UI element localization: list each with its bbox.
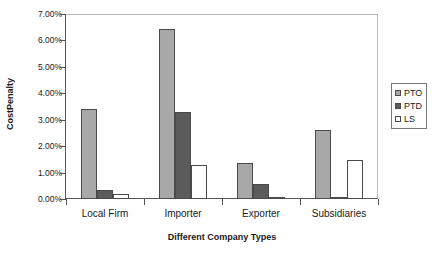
x-axis-tick-label: Importer	[144, 208, 222, 220]
y-axis-tick-label: 7.00%	[18, 10, 62, 19]
x-axis-tick-mark	[66, 199, 67, 205]
legend: PTOPTDLS	[391, 83, 427, 129]
plot-area	[66, 14, 378, 199]
legend-label: PTO	[404, 89, 422, 98]
bar-group	[300, 14, 378, 199]
y-axis-tick-labels: 0.00%1.00%2.00%3.00%4.00%5.00%6.00%7.00%	[18, 0, 62, 210]
x-axis-tick-mark	[222, 199, 223, 205]
y-axis-title: CostPenalty	[2, 78, 18, 130]
bar-pto-local-firm	[81, 109, 97, 199]
legend-item: PTD	[395, 100, 422, 112]
x-axis-tick-mark	[300, 199, 301, 205]
legend-label: PTD	[404, 102, 422, 111]
legend-item: PTO	[395, 87, 422, 99]
x-axis-tick-mark	[144, 199, 145, 205]
bar-pto-exporter	[237, 163, 253, 199]
bar-ptd-exporter	[253, 184, 269, 199]
bar-chart: CostPenalty 0.00%1.00%2.00%3.00%4.00%5.0…	[0, 0, 443, 262]
bar-ls-subsidiaries	[347, 160, 363, 199]
bar-ls-exporter	[269, 197, 285, 199]
bar-group	[66, 14, 144, 199]
legend-swatch-icon	[395, 103, 401, 109]
y-axis-tick-label: 3.00%	[18, 116, 62, 125]
y-axis-tick-mark	[60, 120, 66, 121]
bar-ptd-importer	[175, 112, 191, 199]
bar-ptd-subsidiaries	[331, 197, 347, 199]
y-axis-tick-mark	[60, 146, 66, 147]
bar-pto-subsidiaries	[315, 130, 331, 199]
x-axis-tick-label: Local Firm	[66, 208, 144, 220]
legend-item: LS	[395, 113, 422, 125]
y-axis-tick-mark	[60, 14, 66, 15]
y-axis-tick-mark	[60, 40, 66, 41]
x-axis-title: Different Company Types	[66, 232, 378, 242]
legend-swatch-icon	[395, 90, 401, 96]
x-axis-tick-mark	[378, 199, 379, 205]
y-axis-tick-label: 4.00%	[18, 89, 62, 98]
y-axis-tick-label: 5.00%	[18, 63, 62, 72]
x-axis-tick-label: Exporter	[222, 208, 300, 220]
bar-ptd-local-firm	[97, 190, 113, 199]
y-axis-tick-label: 1.00%	[18, 169, 62, 178]
bar-ls-importer	[191, 165, 207, 199]
y-axis-tick-mark	[60, 67, 66, 68]
bar-group	[222, 14, 300, 199]
x-axis-tick-label: Subsidiaries	[300, 208, 378, 220]
x-axis-tick-labels: Local FirmImporterExporterSubsidiaries	[66, 208, 378, 224]
y-axis-tick-mark	[60, 93, 66, 94]
bar-group	[144, 14, 222, 199]
y-axis-tick-label: 0.00%	[18, 195, 62, 204]
bar-ls-local-firm	[113, 194, 129, 199]
y-axis-tick-label: 2.00%	[18, 142, 62, 151]
legend-label: LS	[404, 115, 415, 124]
bar-pto-importer	[159, 29, 175, 199]
y-axis-tick-label: 6.00%	[18, 36, 62, 45]
y-axis-tick-mark	[60, 173, 66, 174]
legend-swatch-icon	[395, 116, 401, 122]
